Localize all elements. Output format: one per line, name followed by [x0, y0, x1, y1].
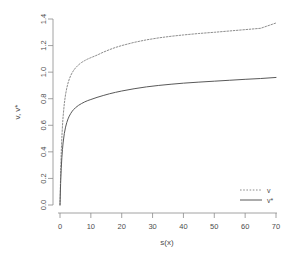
chart-svg: 0.00.20.40.60.81.01.21.4 v, v* 010203040…	[0, 0, 293, 259]
x-tick-label: 30	[148, 222, 156, 231]
plot-canvas: 0.00.20.40.60.81.01.21.4 v, v* 010203040…	[0, 0, 293, 259]
y-tick-label: 1.4	[39, 14, 48, 24]
x-tick-label: 0	[58, 222, 62, 231]
y-tick-label: 0.6	[39, 120, 48, 130]
y-axis-title: v, v*	[13, 105, 22, 120]
x-tick-label: 60	[241, 222, 249, 231]
legend-label-v: v	[267, 187, 271, 194]
x-tick-label: 70	[272, 222, 280, 231]
x-tick-label: 50	[210, 222, 218, 231]
y-tick-label: 1.2	[39, 40, 48, 50]
y-tick-label: 0.0	[39, 200, 48, 210]
y-tick-label: 0.2	[39, 173, 48, 183]
x-axis-title: s(x)	[160, 238, 174, 247]
legend-label-vstar: v*	[267, 197, 274, 204]
x-tick-label: 40	[179, 222, 187, 231]
y-tick-label: 0.4	[39, 147, 48, 157]
y-tick-label: 1.0	[39, 67, 48, 77]
y-tick-label: 0.8	[39, 93, 48, 103]
x-tick-label: 20	[118, 222, 126, 231]
x-tick-label: 10	[87, 222, 95, 231]
